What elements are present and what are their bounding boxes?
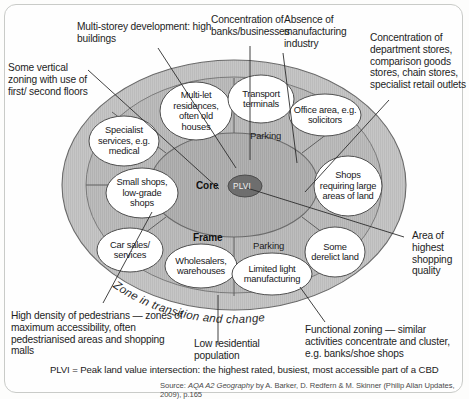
bubble-shape-office-area [289,94,361,136]
source-citation: Source: AQA A2 Geography by A. Barker, D… [160,381,460,399]
bubble-shape-transport-terminals [228,75,294,123]
source-prefix: Source: [160,381,188,390]
diagram-canvas: Zone in transition and change Core Frame… [0,0,469,399]
annotation-concentration-banks: Concentration of banks/businesses [211,14,295,38]
parking-label-bottom: Parking [253,240,284,251]
source-title: AQA A2 Geography [188,381,254,390]
bubble-shape-specialist-services [89,116,159,166]
bubble-shape-wholesalers [165,244,237,288]
bubble-shape-multi-let-residences [160,82,232,140]
bubble-shape-limited-light-manufacturing [232,253,312,295]
parking-label-top: Parking [250,130,281,141]
annotation-absence-manufacturing: Absence of manufacturing industry [284,14,358,49]
plvi-footnote: PLVI = Peak land value intersection: the… [50,364,450,375]
bubble-shape-some-derelict-land [305,227,365,277]
annotation-low-residential-population: Low residential population [194,338,286,362]
annotation-multi-storey-development: Multi-storey development: high buildings [77,21,227,45]
annotation-area-highest-shopping-quality: Area of highest shopping quality [412,230,466,277]
bubble-shape-shops-large-areas [314,156,382,216]
frame-label: Frame [193,232,223,243]
plvi-label: PLVI [233,182,251,191]
bubble-shape-small-shops [106,168,178,218]
annotation-concentration-department-stores: Concentration of department stores, comp… [370,32,466,91]
annotation-functional-zoning: Functional zoning — similar activities c… [305,324,465,359]
core-label: Core [196,180,218,191]
bubble-shape-car-sales [97,228,163,272]
annotation-some-vertical-zoning: Some vertical zoning with use of first/ … [8,62,90,97]
annotation-high-density-pedestrians: High density of pedestrians — zones of m… [11,310,183,357]
